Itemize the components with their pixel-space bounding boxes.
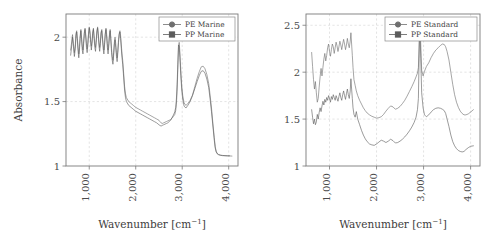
y-tick-label: 1.5 (284, 114, 300, 125)
x-tick-label: 1,000 (321, 173, 332, 202)
y-tick-label: 2 (294, 67, 300, 78)
x-axis-title: Wavenumber [cm−1] (339, 217, 447, 231)
y-tick-label: 2.5 (284, 20, 300, 31)
chart-panel-standard: 1,0002,0003,0004,00011.522.5Wavenumber [… (248, 0, 496, 240)
ftir-spectra-figure: 1,0002,0003,0004,00011.52Wavenumber [cm−… (0, 0, 496, 240)
y-tick-label: 1.5 (44, 96, 60, 107)
legend-marker-circle (395, 22, 400, 27)
legend-label: PP Standard (411, 30, 458, 39)
legend-label: PP Marine (185, 30, 224, 39)
legend-marker-square (169, 32, 174, 37)
x-tick-label: 3,000 (415, 173, 426, 202)
chart-panel-marine: 1,0002,0003,0004,00011.52Wavenumber [cm−… (0, 0, 248, 240)
y-tick-label: 2 (54, 32, 60, 43)
legend: PE StandardPP Standard (385, 17, 477, 41)
x-tick-label: 4,000 (462, 173, 473, 202)
x-tick-label: 4,000 (220, 173, 231, 202)
legend-marker-circle (169, 22, 174, 27)
x-axis-title: Wavenumber [cm−1] (98, 217, 206, 231)
y-tick-label: 1 (294, 161, 300, 172)
y-axis-title: Absorbance (12, 59, 24, 123)
chart-svg-standard: 1,0002,0003,0004,00011.522.5Wavenumber [… (248, 0, 496, 240)
x-tick-label: 2,000 (127, 173, 138, 202)
x-tick-label: 1,000 (80, 173, 91, 202)
legend-marker-square (395, 32, 400, 37)
legend: PE MarinePP Marine (159, 17, 235, 41)
y-tick-label: 1 (54, 161, 60, 172)
series-line-1 (71, 28, 230, 156)
x-tick-label: 2,000 (368, 173, 379, 202)
x-tick-label: 3,000 (173, 173, 184, 202)
chart-svg-marine: 1,0002,0003,0004,00011.52Wavenumber [cm−… (0, 0, 248, 240)
legend-label: PE Marine (185, 20, 225, 29)
legend-label: PE Standard (411, 20, 459, 29)
